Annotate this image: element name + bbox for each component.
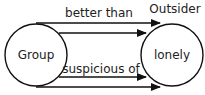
- outsider-label: lonely: [154, 48, 190, 62]
- diagram-canvas: Group lonely Outsider better than suspic…: [0, 0, 205, 95]
- outsider-caption: Outsider: [149, 2, 200, 16]
- edge-label-suspicious-of: suspicious of: [62, 62, 140, 76]
- edge-label-better-than: better than: [65, 6, 133, 20]
- group-label: Group: [18, 48, 55, 62]
